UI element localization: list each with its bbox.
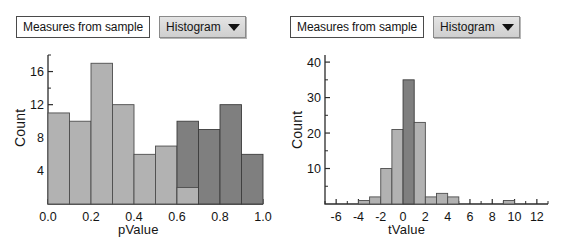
histogram-canvas-pvalue: 4812160.00.20.40.60.81.0 xyxy=(0,39,281,246)
x-tick-label: 8 xyxy=(489,210,496,224)
histogram-comparison-view: Measures from sample Histogram Count pVa… xyxy=(0,0,562,246)
chart-type-dropdown-left[interactable]: Histogram xyxy=(159,16,246,38)
chart-type-label-right: Histogram xyxy=(440,18,495,37)
histogram-canvas-tvalue: 10203040-6-4-2024681012 xyxy=(281,39,562,246)
histogram-bar xyxy=(381,169,392,204)
y-tick-label: 30 xyxy=(307,91,321,105)
chevron-down-icon xyxy=(228,24,240,31)
toolbar-right: Measures from sample Histogram xyxy=(281,15,562,39)
plot-right: Count tValue 10203040-6-4-2024681012 xyxy=(281,39,562,246)
histogram-bar xyxy=(448,197,459,204)
histogram-bar xyxy=(403,80,414,204)
histogram-bar xyxy=(392,130,403,205)
x-tick-label: 0.6 xyxy=(168,210,185,224)
x-tick-label: 12 xyxy=(530,210,544,224)
histogram-bar xyxy=(425,197,436,204)
x-tick-label: -6 xyxy=(331,210,342,224)
histogram-bar xyxy=(113,105,135,204)
histogram-bar xyxy=(48,113,70,204)
measure-selector-right[interactable]: Measures from sample xyxy=(290,16,424,38)
histogram-bar xyxy=(134,154,156,204)
x-tick-label: -4 xyxy=(353,210,364,224)
histogram-bar xyxy=(91,63,113,204)
x-tick-label: 2 xyxy=(422,210,429,224)
histogram-bar xyxy=(220,105,242,204)
histogram-bar xyxy=(242,154,264,204)
x-tick-label: 0.0 xyxy=(39,210,56,224)
x-tick-label: 0 xyxy=(400,210,407,224)
x-tick-label: 0.8 xyxy=(211,210,228,224)
histogram-bar xyxy=(199,130,221,205)
chart-type-dropdown-right[interactable]: Histogram xyxy=(433,16,520,38)
chart-type-label-left: Histogram xyxy=(166,18,221,37)
x-tick-label: -2 xyxy=(375,210,386,224)
y-tick-label: 40 xyxy=(307,56,321,70)
chevron-down-icon xyxy=(502,24,514,31)
histogram-bar xyxy=(370,197,381,204)
histogram-bar xyxy=(503,200,514,204)
x-tick-label: 1.0 xyxy=(254,210,271,224)
x-tick-label: 0.4 xyxy=(125,210,142,224)
toolbar-left: Measures from sample Histogram xyxy=(0,15,297,39)
histogram-bar xyxy=(70,121,92,204)
x-tick-label: 6 xyxy=(466,210,473,224)
histogram-bar xyxy=(177,121,199,204)
x-tick-label: 10 xyxy=(508,210,522,224)
panel-right: Measures from sample Histogram Count tVa… xyxy=(281,0,562,246)
histogram-bar xyxy=(156,146,178,204)
panel-left: Measures from sample Histogram Count pVa… xyxy=(0,0,281,246)
x-tick-label: 0.2 xyxy=(82,210,99,224)
y-tick-label: 4 xyxy=(37,164,44,178)
histogram-bar xyxy=(358,200,369,204)
histogram-bar xyxy=(437,193,448,204)
y-tick-label: 12 xyxy=(30,98,44,112)
y-tick-label: 16 xyxy=(30,65,44,79)
histogram-bar xyxy=(414,122,425,204)
y-tick-label: 8 xyxy=(37,131,44,145)
plot-left: Count pValue 4812160.00.20.40.60.81.0 xyxy=(0,39,281,246)
y-tick-label: 20 xyxy=(307,127,321,141)
axis-lines xyxy=(325,55,548,204)
y-tick-label: 10 xyxy=(307,162,321,176)
measure-selector-left[interactable]: Measures from sample xyxy=(16,16,150,38)
x-tick-label: 4 xyxy=(444,210,451,224)
